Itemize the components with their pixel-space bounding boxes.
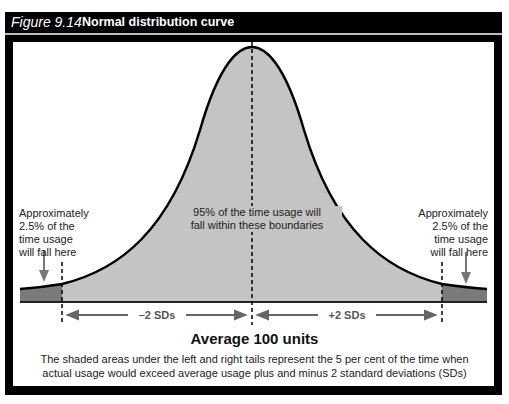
right-tail-label: Approximately 2.5% of the time usage wil…	[400, 207, 488, 259]
average-label: Average 100 units	[0, 330, 509, 347]
label-line: Approximately	[19, 207, 89, 220]
label-line: will fall here	[400, 246, 488, 259]
label-line: Approximately	[400, 207, 488, 220]
label-line: fall within these boundaries	[172, 219, 342, 232]
center-label: 95% of the time usage will fall within t…	[172, 206, 342, 232]
label-line: will fall here	[19, 246, 89, 259]
left-tail-label: Approximately 2.5% of the time usage wil…	[19, 207, 89, 259]
label-line: 2.5% of the	[400, 220, 488, 233]
label-line: 2.5% of the	[19, 220, 89, 233]
caption-note: The shaded areas under the left and righ…	[0, 352, 509, 380]
plus-2sd-label: +2 SDs	[318, 309, 376, 322]
label-line: 95% of the time usage will	[172, 206, 342, 219]
label-line: time usage	[19, 233, 89, 246]
minus-2sd-label: –2 SDs	[128, 309, 186, 322]
note-line: The shaded areas under the left and righ…	[0, 352, 509, 366]
note-line: actual usage would exceed average usage …	[0, 366, 509, 380]
label-line: time usage	[400, 233, 488, 246]
